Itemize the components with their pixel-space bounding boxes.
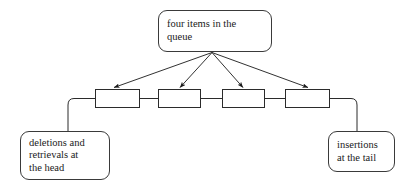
- fanout-arrows: [114, 53, 308, 88]
- arrow-to-node-1: [114, 53, 212, 88]
- head-operations-line-3: the head: [21, 162, 109, 175]
- queue-node-3: [222, 89, 265, 108]
- tail-operations-box: insertions at the tail: [328, 131, 395, 172]
- four-items-line-1: four items in the: [159, 18, 271, 31]
- tail-operations-line-2: at the tail: [329, 152, 394, 165]
- head-operations-box: deletions and retrievals at the head: [20, 131, 110, 180]
- queue-node-2: [158, 89, 201, 108]
- arrow-to-node-4: [212, 53, 308, 88]
- head-connector-line: [68, 99, 95, 132]
- queue-node-4: [285, 89, 330, 108]
- four-items-line-2: queue: [159, 31, 271, 44]
- head-operations-line-1: deletions and: [21, 137, 109, 150]
- tail-operations-line-1: insertions: [329, 139, 394, 152]
- four-items-box: four items in the queue: [158, 10, 272, 52]
- tail-connector-line: [330, 99, 357, 132]
- queue-diagram: four items in the queue deletions and re…: [0, 0, 410, 186]
- queue-node-1: [95, 89, 140, 108]
- head-operations-line-2: retrievals at: [21, 149, 109, 162]
